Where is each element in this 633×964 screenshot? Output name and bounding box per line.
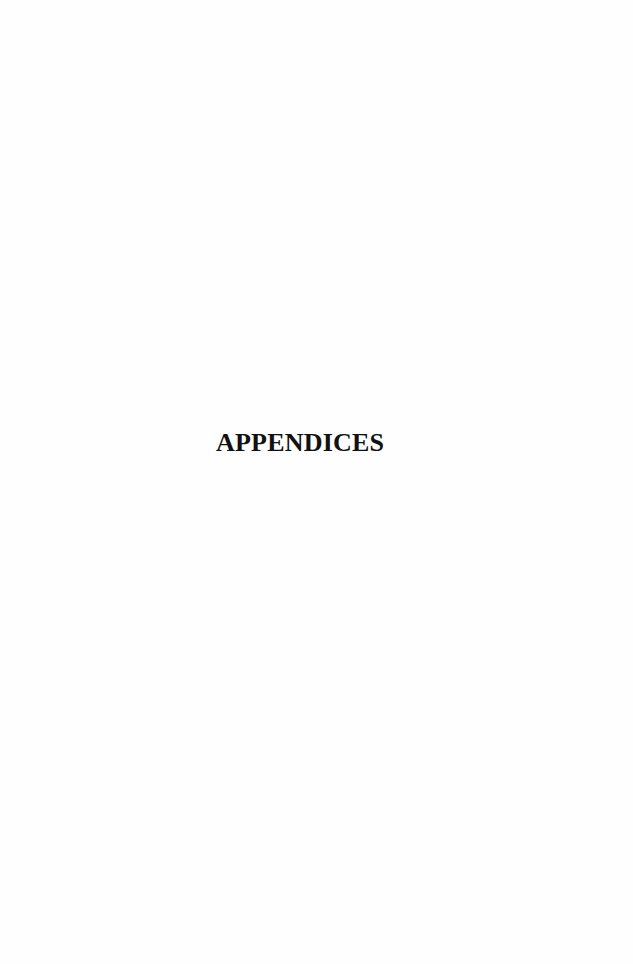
section-title: APPENDICES xyxy=(216,428,384,458)
document-page: APPENDICES xyxy=(0,0,633,964)
